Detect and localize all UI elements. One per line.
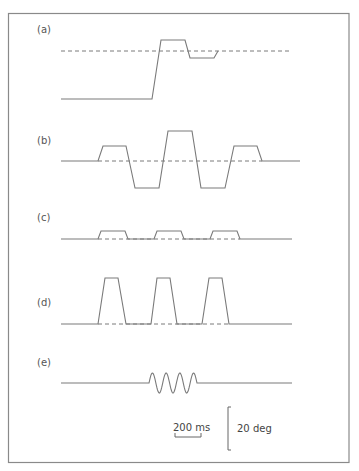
panel-a-label: (a) [37, 24, 51, 35]
panel-b-trace [61, 131, 300, 188]
figure-frame [9, 14, 350, 463]
panel-d-label: (d) [37, 297, 51, 308]
time-scale-bar [175, 433, 201, 437]
angle-scale-label: 20 deg [237, 423, 272, 434]
angle-scale-bar [228, 407, 231, 450]
panel-e-label: (e) [37, 357, 51, 368]
time-scale-label: 200 ms [173, 422, 210, 433]
panel-c-label: (c) [37, 212, 50, 223]
panel-e: (e) [37, 357, 292, 393]
panel-a: (a) [37, 24, 292, 99]
panel-d-trace [61, 278, 292, 324]
panel-b: (b) [37, 131, 300, 188]
figure: (a) (b) (c) (d) (e) 200 ms 20 deg [0, 0, 359, 471]
panel-d: (d) [37, 278, 292, 324]
scale-bars: 200 ms 20 deg [173, 407, 272, 450]
panel-c: (c) [37, 212, 292, 239]
panel-a-trace [61, 40, 218, 99]
panel-e-trace [61, 373, 292, 393]
panel-b-label: (b) [37, 135, 51, 146]
panel-c-trace [61, 231, 292, 239]
